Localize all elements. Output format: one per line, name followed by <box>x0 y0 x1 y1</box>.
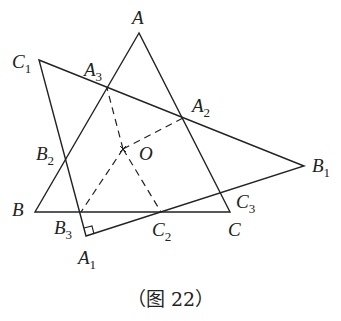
dashed-o-b3 <box>81 149 123 212</box>
label-a3: A3 <box>82 59 102 84</box>
figure-caption: （图 22） <box>0 284 341 311</box>
label-b3: B3 <box>54 217 72 242</box>
label-c1: C1 <box>12 51 31 76</box>
geometry-figure: A B C A1 B1 C1 A2 B2 C2 A3 B3 C3 O <box>0 0 341 321</box>
label-a: A <box>130 7 144 28</box>
label-c2: C2 <box>152 219 171 244</box>
label-a2: A2 <box>190 95 210 120</box>
dashed-o-a2 <box>123 118 183 149</box>
label-b1: B1 <box>312 155 330 180</box>
triangle-abc <box>35 33 230 212</box>
label-b: B <box>12 199 24 220</box>
label-a1: A1 <box>76 247 96 272</box>
triangle-a1b1c1 <box>39 60 304 236</box>
label-c3: C3 <box>236 191 255 216</box>
label-o: O <box>139 143 153 164</box>
label-c: C <box>228 219 241 240</box>
label-b2: B2 <box>36 143 54 168</box>
dashed-o-a3 <box>107 88 123 149</box>
